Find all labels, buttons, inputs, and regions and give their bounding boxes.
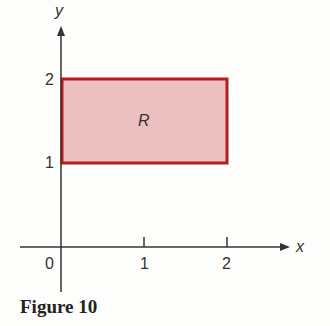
figure-caption: Figure 10	[20, 296, 97, 318]
y-axis-arrow-icon	[57, 26, 65, 36]
y-axis-label: y	[55, 2, 63, 20]
x-axis-label: x	[296, 238, 304, 256]
x-axis-arrow-icon	[280, 243, 290, 251]
x-tick-label-1: 1	[140, 255, 149, 273]
y-tick-label-1: 1	[45, 154, 54, 172]
x-tick-label-0: 0	[45, 255, 54, 273]
figure: y x R 2 1 0 1 2 Figure 10	[0, 0, 330, 326]
x-tick-label-2: 2	[222, 255, 231, 273]
region-label: R	[138, 112, 150, 130]
y-tick-label-2: 2	[45, 71, 54, 89]
